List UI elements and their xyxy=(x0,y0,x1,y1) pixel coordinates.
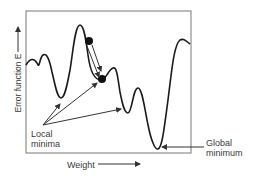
local-min-arrow-2 xyxy=(43,83,97,125)
y-axis-label: Error function E xyxy=(13,43,23,123)
roll-arrow-inner xyxy=(92,45,101,71)
global-minimum-label: Global minimum xyxy=(206,138,243,158)
local-minima-line1: Local xyxy=(31,129,60,139)
local-minima-line2: minima xyxy=(31,139,60,149)
ball-start xyxy=(85,37,93,45)
x-axis-label: Weight xyxy=(67,160,95,170)
local-min-arrow-3 xyxy=(43,109,121,125)
global-minimum-line1: Global xyxy=(206,138,243,148)
local-minima-label: Local minima xyxy=(31,129,60,149)
global-minimum-line2: minimum xyxy=(206,148,243,158)
